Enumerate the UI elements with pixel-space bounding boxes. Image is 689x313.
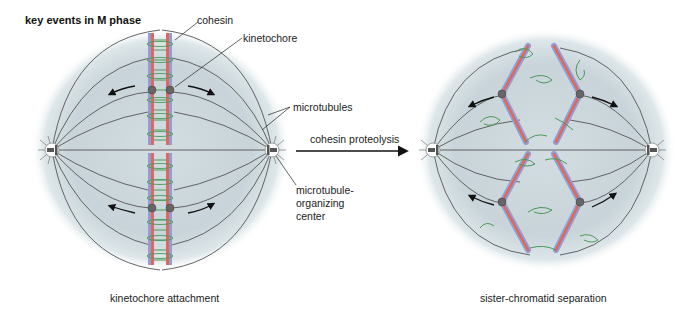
label-microtubules: microtubules	[293, 101, 353, 113]
right-panel-left-pole	[426, 143, 440, 157]
kinetochore-ll	[498, 198, 506, 206]
caption-kinetochore-attachment: kinetochore attachment	[110, 292, 219, 304]
kinetochore-lr	[576, 198, 584, 206]
label-mtoc-line1: microtubule-	[296, 184, 354, 196]
figure-title: key events in M phase	[25, 14, 141, 26]
left-pole-mtoc	[45, 143, 59, 157]
left-spindle	[31, 22, 296, 272]
kinetochore-ur	[576, 90, 584, 98]
label-cohesin: cohesin	[197, 14, 233, 26]
kinetochore-left-upper	[148, 86, 156, 94]
kinetochore-right-lower	[166, 204, 174, 212]
right-panel-right-pole	[645, 143, 659, 157]
label-cohesin-proteolysis: cohesin proteolysis	[310, 133, 399, 145]
kinetochore-ul	[498, 90, 506, 98]
caption-sister-chromatid-separation: sister-chromatid separation	[480, 292, 607, 304]
label-kinetochore: kinetochore	[243, 32, 297, 44]
right-spindle	[416, 28, 676, 272]
right-pole-mtoc	[265, 143, 279, 157]
kinetochore-left-lower	[148, 204, 156, 212]
kinetochore-right-upper	[166, 86, 174, 94]
diagram-canvas	[0, 0, 689, 313]
label-mtoc-line3: center	[296, 210, 325, 222]
label-mtoc-line2: organizing	[296, 197, 344, 209]
